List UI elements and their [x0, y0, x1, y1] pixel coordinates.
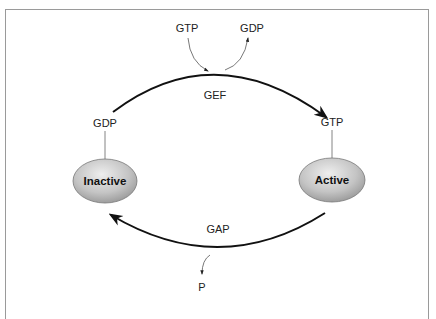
- phosphate-arrow: [202, 255, 210, 274]
- exchange-gdp-label: GDP: [240, 22, 264, 34]
- inactive-node-label: Inactive: [84, 175, 127, 187]
- active-gtp-label: GTP: [321, 116, 344, 128]
- inactive-gdp-label: GDP: [93, 117, 117, 129]
- gdp-out-arrow: [225, 38, 248, 70]
- gtp-in-arrow: [188, 38, 208, 71]
- exchange-gtp-label: GTP: [176, 22, 199, 34]
- active-node-label: Active: [315, 174, 350, 186]
- gef-label: GEF: [204, 89, 227, 101]
- gap-label: GAP: [206, 223, 229, 235]
- phosphate-label: P: [198, 281, 205, 293]
